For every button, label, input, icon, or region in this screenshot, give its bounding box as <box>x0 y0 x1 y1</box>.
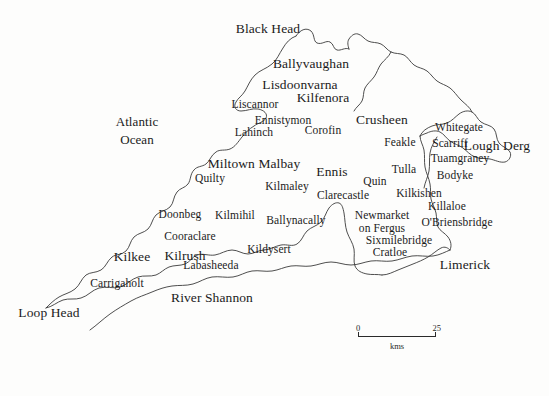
label-whitegate: Whitegate <box>435 121 483 134</box>
label-liscannor: Liscannor <box>232 98 279 111</box>
label-kilkishen: Kilkishen <box>396 187 442 200</box>
label-scarriff: Scarriff <box>432 137 468 150</box>
scale-bar: 0 25 kms <box>358 336 436 337</box>
crusheen-boundary-notch-path <box>354 52 391 111</box>
scale-unit-label: kms <box>390 341 404 351</box>
label-clarecastle: Clarecastle <box>317 189 369 202</box>
label-labasheeda: Labasheeda <box>183 259 238 272</box>
label-ballyvaughan: Ballyvaughan <box>273 56 349 72</box>
label-doonbeg: Doonbeg <box>159 208 202 221</box>
atlantic-ocean-line-2: Ocean <box>116 131 159 149</box>
label-feakle: Feakle <box>384 136 415 149</box>
label-crusheen: Crusheen <box>356 112 408 128</box>
west-coast-path <box>46 36 296 308</box>
label-black-head: Black Head <box>236 21 300 37</box>
label-miltown-malbay: Miltown Malbay <box>208 156 301 172</box>
atlantic-ocean-line-1: Atlantic <box>116 113 159 131</box>
label-cratloe: Cratloe <box>373 246 408 259</box>
label-limerick: Limerick <box>440 257 490 273</box>
label-ballynacally: Ballynacally <box>266 214 325 227</box>
label-lahinch: Lahinch <box>235 126 273 139</box>
label-loop-head: Loop Head <box>18 305 79 321</box>
label-kilmihil: Kilmihil <box>215 209 255 222</box>
newmarket-on-fergus-line-2: on Fergus <box>355 222 410 235</box>
label-quilty: Quilty <box>195 172 225 185</box>
label-killaloe: Killaloe <box>428 200 466 213</box>
label-cooraclare: Cooraclare <box>164 230 215 243</box>
label-kildysert: Kildysert <box>247 243 291 256</box>
north-coast-path <box>296 29 349 50</box>
label-carrigaholt: Carrigaholt <box>90 277 143 290</box>
northeast-boundary-path <box>348 34 472 112</box>
label-bodyke: Bodyke <box>437 169 473 182</box>
label-ennis: Ennis <box>316 164 347 180</box>
scale-min-label: 0 <box>356 323 360 333</box>
label-atlantic-ocean: Atlantic Ocean <box>116 113 159 148</box>
label-tuamgraney: Tuamgraney <box>431 152 490 165</box>
label-newmarket-on-fergus: Newmarket on Fergus <box>355 209 410 235</box>
map-canvas: Atlantic Ocean River Shannon Lough Derg … <box>0 0 549 396</box>
label-obriensbridge: O'Briensbridge <box>421 216 492 229</box>
newmarket-on-fergus-line-1: Newmarket <box>355 209 410 222</box>
label-kilkee: Kilkee <box>114 249 151 265</box>
label-quin: Quin <box>363 175 386 188</box>
label-tulla: Tulla <box>392 163 416 176</box>
label-river-shannon: River Shannon <box>171 290 253 306</box>
label-kilmaley: Kilmaley <box>265 180 309 193</box>
scale-max-label: 25 <box>433 323 442 333</box>
label-kilfenora: Kilfenora <box>297 90 350 106</box>
label-corofin: Corofin <box>305 124 341 137</box>
